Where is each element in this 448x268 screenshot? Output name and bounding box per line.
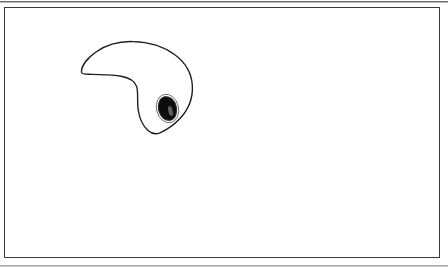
figure-drawing-canvas <box>0 0 448 268</box>
figure-page <box>0 0 448 268</box>
scan-edge-bottom-soft <box>0 266 448 267</box>
